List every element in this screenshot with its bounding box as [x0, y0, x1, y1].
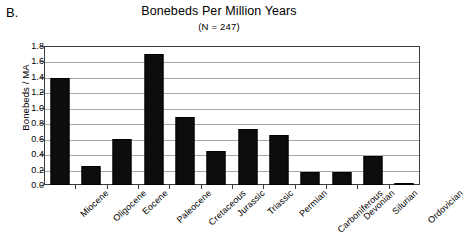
y-tick-label: 0.4 [4, 150, 44, 159]
y-tick-label: 0.8 [4, 119, 44, 128]
bar-slot [169, 46, 200, 185]
y-axis-ticks: 1.81.61.41.21.00.80.60.40.20.0 [0, 46, 44, 185]
bar-slot [201, 46, 232, 185]
bar-slot [75, 46, 106, 185]
x-tick-label: Ordovician [426, 188, 465, 225]
x-tick-label: Permian [298, 188, 330, 219]
y-tick-label: 0.0 [4, 181, 44, 190]
bar-slot [138, 46, 169, 185]
bar [238, 129, 257, 185]
bar [332, 172, 351, 185]
y-tick-label: 0.2 [4, 166, 44, 175]
bar-slot [232, 46, 263, 185]
bar-slot [389, 46, 420, 185]
bar [144, 54, 163, 185]
y-tick-label: 1.8 [4, 42, 44, 51]
bar [207, 151, 226, 185]
bar-slot [295, 46, 326, 185]
bar [363, 156, 382, 185]
bars-layer [44, 46, 420, 185]
y-tick-label: 1.0 [4, 104, 44, 113]
x-tick-label: Miocene [78, 188, 110, 219]
bar-slot [263, 46, 294, 185]
bar [269, 135, 288, 185]
y-tick-label: 1.6 [4, 57, 44, 66]
bar [50, 78, 69, 185]
bar-slot [357, 46, 388, 185]
bar [81, 166, 100, 185]
y-tick-label: 1.2 [4, 88, 44, 97]
y-tick-label: 1.4 [4, 73, 44, 82]
y-tick-label: 0.6 [4, 135, 44, 144]
bar-slot [326, 46, 357, 185]
title-block: Bonebeds Per Million Years (N = 247) [0, 4, 438, 33]
chart-title: Bonebeds Per Million Years [0, 4, 438, 19]
chart-subtitle: (N = 247) [0, 21, 438, 33]
bar-slot [44, 46, 75, 185]
bar [113, 139, 132, 185]
x-tick-label: Triassic [266, 188, 296, 217]
bar [175, 117, 194, 185]
bar [301, 172, 320, 185]
x-tick-label: Silurian [391, 188, 420, 216]
x-axis-labels: MioceneOligoceneEocenePaleoceneCretaceou… [44, 188, 420, 250]
bar-slot [107, 46, 138, 185]
